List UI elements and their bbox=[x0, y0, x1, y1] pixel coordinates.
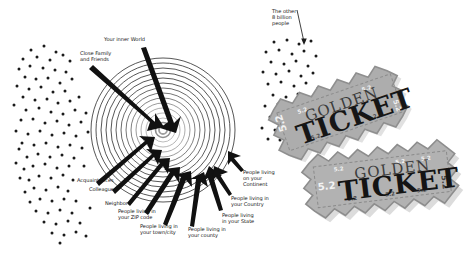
dot-cluster-left-crowd bbox=[13, 45, 92, 245]
arrow-other-people bbox=[297, 10, 307, 45]
golden-tickets: 5.2 5.2 5.2 5.2 5.2 5.2 GOLDEN TICKET 5.… bbox=[263, 58, 465, 224]
ticket-bottom-serial-left: 5.2 bbox=[317, 179, 336, 192]
arrow-county bbox=[190, 172, 208, 227]
arrow-continent bbox=[228, 151, 244, 172]
diagram-canvas: 5.2 5.2 5.2 5.2 5.2 5.2 GOLDEN TICKET 5.… bbox=[0, 0, 471, 262]
label-neighbors: Neighbors bbox=[105, 200, 130, 206]
label-colleagues: Colleagues bbox=[89, 186, 117, 192]
label-country: People living in your Country bbox=[231, 195, 269, 207]
label-close-family: Close Family and Friends bbox=[80, 50, 111, 62]
label-other-people: The other 8 billion people bbox=[272, 8, 296, 26]
label-inner-world: Your inner World bbox=[104, 36, 145, 42]
label-county: People living in your county bbox=[188, 226, 226, 238]
label-town-city: People living in your town/city bbox=[140, 223, 178, 235]
label-continent: People living on your Continent bbox=[243, 169, 275, 187]
label-state: People living in your State bbox=[222, 212, 254, 224]
label-zip-code: People living in your ZIP code bbox=[118, 208, 156, 220]
ticket-bottom-serial-topa: 5.2 bbox=[333, 165, 344, 172]
label-acquaintances: Acquaintances bbox=[77, 177, 114, 183]
